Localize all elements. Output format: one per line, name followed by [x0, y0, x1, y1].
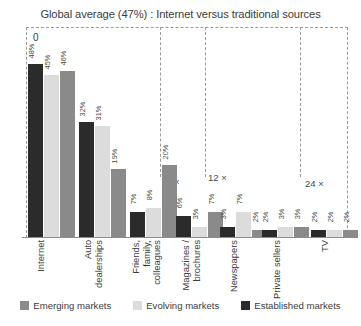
bar-internet-established: 46%: [60, 71, 75, 238]
bar-chart: Global average (47%) : Internet versus t…: [0, 0, 361, 326]
bar-value: 2%: [251, 212, 260, 223]
bar-value: 8%: [145, 190, 154, 201]
bar-internet-evolving: 45%: [44, 75, 59, 238]
bar-value: 20%: [161, 145, 170, 160]
legend-label: Evolving markets: [146, 300, 219, 311]
bar-value: 7%: [207, 194, 216, 205]
bar-group-internet: 48% 45% 46%: [28, 27, 75, 238]
chart-legend: Emerging markets Evolving markets Establ…: [0, 300, 361, 311]
legend-item-evolving: Evolving markets: [133, 300, 219, 311]
legend-swatch-icon: [241, 301, 250, 310]
bar-friends-evolving: 8%: [146, 208, 161, 238]
bar-group-private-sellers: 2% 3% 3%: [262, 27, 309, 238]
category-label-newspapers: Newspapers: [229, 240, 240, 292]
bar-group-tv: 2% 2% 2%: [311, 27, 358, 238]
category-label-friends: Friends, family, colleagues: [131, 240, 163, 285]
bar-auto-evolving: 31%: [95, 126, 110, 238]
bar-group-magazines: 6% 3% 7%: [176, 27, 223, 238]
axis-baseline: [22, 237, 351, 238]
bar-value: 31%: [94, 106, 103, 121]
bar-value: 48%: [27, 44, 36, 59]
bar-value: 46%: [59, 51, 68, 66]
bar-friends-emerging: 7%: [130, 212, 145, 238]
bar-auto-emerging: 32%: [79, 122, 94, 238]
bar-group-friends: 7% 8% 20%: [130, 27, 177, 238]
legend-label: Emerging markets: [33, 300, 111, 311]
bar-value: 7%: [129, 194, 138, 205]
category-label-auto-dealerships: Auto dealerships: [83, 240, 104, 288]
bar-value: 32%: [78, 102, 87, 117]
bar-group-newspapers: 3% 7% 2%: [220, 27, 267, 238]
bar-value: 3%: [277, 209, 286, 220]
legend-label: Established markets: [254, 300, 340, 311]
bar-value: 2%: [310, 212, 319, 223]
bar-value: 19%: [110, 149, 119, 164]
bar-value: 3%: [191, 209, 200, 220]
bar-value: 2%: [326, 212, 335, 223]
category-label-tv: TV: [320, 240, 331, 252]
legend-item-emerging: Emerging markets: [20, 300, 111, 311]
bar-value: 7%: [235, 194, 244, 205]
bar-value: 6%: [175, 198, 184, 209]
bar-magazines-emerging: 6%: [176, 216, 191, 238]
category-label-magazines: Magazines / brochures: [181, 240, 202, 291]
bar-auto-established: 19%: [111, 169, 126, 238]
bar-value: 3%: [293, 209, 302, 220]
legend-item-established: Established markets: [241, 300, 340, 311]
bar-value: 2%: [261, 212, 270, 223]
bar-value: 3%: [219, 209, 228, 220]
bar-value: 2%: [342, 212, 351, 223]
bar-newspapers-evolving: 7%: [236, 212, 251, 238]
legend-swatch-icon: [20, 301, 29, 310]
bars-layer: 48% 45% 46% 32% 31% 19% 7%: [0, 27, 361, 238]
category-label-private-sellers: Private sellers: [272, 240, 283, 299]
bar-value: 45%: [43, 55, 52, 70]
chart-title: Global average (47%) : Internet versus t…: [0, 8, 361, 20]
bar-group-auto-dealerships: 32% 31% 19%: [79, 27, 126, 238]
category-label-internet: Internet: [36, 240, 47, 272]
category-labels: Internet Auto dealerships Friends, famil…: [0, 240, 361, 296]
bar-internet-emerging: 48%: [28, 64, 43, 238]
legend-swatch-icon: [133, 301, 142, 310]
